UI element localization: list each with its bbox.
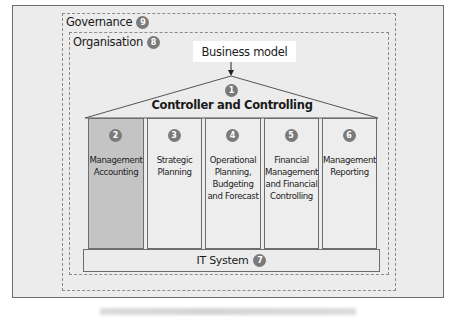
pillar-3: 4OperationalPlanning,Budgetingand Foreca… bbox=[205, 118, 261, 249]
pillar-badge: 4 bbox=[226, 129, 239, 142]
roof-title: Controller and Controlling bbox=[85, 98, 379, 112]
pillar-4: 5FinancialManagementand FinancialControl… bbox=[264, 118, 319, 249]
pillar-label-line: Financial bbox=[265, 154, 318, 166]
pillar-label-line: Management bbox=[323, 154, 376, 166]
pillar-label: FinancialManagementand FinancialControll… bbox=[265, 154, 318, 202]
pillar-label-line: Accounting bbox=[89, 166, 143, 178]
pillar-label-line: Controlling bbox=[265, 190, 318, 202]
roof-badge: 1 bbox=[225, 84, 238, 97]
pillar-label-line: and Financial bbox=[265, 178, 318, 190]
pillar-label-line: Reporting bbox=[323, 166, 376, 178]
pillar-label-line: Management bbox=[265, 166, 318, 178]
pillar-2: 3StrategicPlanning bbox=[147, 118, 202, 249]
it-system-label: IT System bbox=[197, 254, 249, 267]
it-system-foundation: IT System 7 bbox=[83, 249, 380, 272]
pillar-5: 6ManagementReporting bbox=[322, 118, 377, 249]
pillar-label: ManagementAccounting bbox=[89, 154, 143, 178]
pillar-label-line: Management bbox=[89, 154, 143, 166]
pillar-badge: 5 bbox=[285, 129, 298, 142]
pillar-label: StrategicPlanning bbox=[148, 154, 201, 178]
it-system-badge: 7 bbox=[253, 254, 266, 267]
pillar-label: OperationalPlanning,Budgetingand Forecas… bbox=[206, 154, 260, 202]
pillar-label-line: Strategic bbox=[148, 154, 201, 166]
pillar-1: 2ManagementAccounting bbox=[88, 118, 144, 249]
pillar-label-line: and Forecast bbox=[206, 190, 260, 202]
pillar-label: ManagementReporting bbox=[323, 154, 376, 178]
pillar-label-line: Planning bbox=[148, 166, 201, 178]
pillar-label-line: Operational bbox=[206, 154, 260, 166]
pillar-badge: 2 bbox=[109, 129, 122, 142]
pillar-badge: 3 bbox=[168, 129, 181, 142]
blurred-caption bbox=[100, 308, 356, 315]
pillar-label-line: Budgeting bbox=[206, 178, 260, 190]
pillar-label-line: Planning, bbox=[206, 166, 260, 178]
pillar-badge: 6 bbox=[343, 129, 356, 142]
arrow-head-icon bbox=[228, 70, 234, 76]
